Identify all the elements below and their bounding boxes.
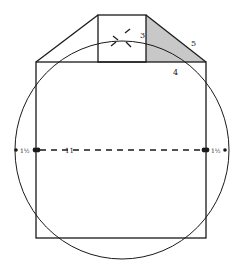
roof-left-slope (36, 15, 98, 62)
top-small-box (98, 15, 146, 62)
label-3: 3 (140, 31, 145, 40)
label-left-fraction: 1½ (20, 147, 30, 154)
label-4: 4 (173, 68, 178, 77)
geometry-diagram: 3 5 4 11 1½ 1½ (0, 0, 238, 274)
label-5: 5 (191, 39, 196, 48)
center-mark-icon (111, 29, 131, 47)
label-11: 11 (65, 147, 74, 155)
label-right-fraction: 1½ (211, 147, 221, 154)
